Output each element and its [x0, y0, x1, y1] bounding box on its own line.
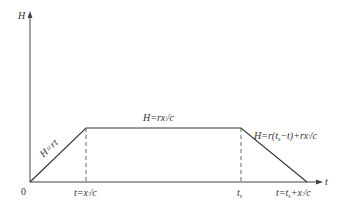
fall-equation-label: H=r(ts−t)+rx′/c [254, 131, 317, 142]
x-axis-label: t [325, 177, 328, 187]
diagram-canvas [0, 0, 342, 210]
tick-label-rise-end: t=x′/c [74, 188, 97, 198]
y-axis-label: H [18, 11, 25, 21]
x-axis-arrow-icon [316, 180, 323, 185]
plateau-equation-label: H=rx′/c [143, 113, 174, 123]
y-axis-arrow-icon [28, 11, 33, 18]
tick-label-ts: ts [237, 188, 242, 199]
origin-label: 0 [21, 187, 26, 197]
tick-label-fall-end: t=ts+x′/c [276, 188, 311, 199]
